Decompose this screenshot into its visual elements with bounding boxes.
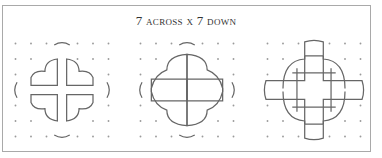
panel-1 — [15, 43, 110, 138]
panel-2 — [140, 43, 235, 138]
panel-3 — [264, 40, 363, 139]
pattern-figures — [0, 0, 382, 158]
